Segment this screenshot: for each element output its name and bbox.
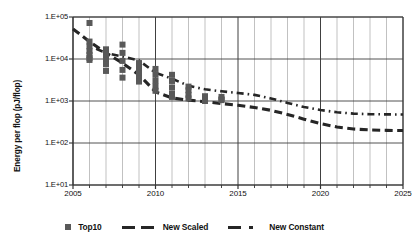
legend-item-new-scaled: New Scaled <box>122 222 229 232</box>
x-axis-tick-label: 2020 <box>312 189 329 198</box>
chart-legend: Top10 New Scaled New Constant <box>0 222 409 232</box>
legend-label-top10: Top10 <box>78 222 102 232</box>
legend-label-new-constant: New Constant <box>269 222 324 232</box>
dashed-line-icon <box>122 223 156 232</box>
x-axis-tick-label: 2025 <box>394 189 411 198</box>
x-axis-tick-label: 2015 <box>229 189 246 198</box>
square-marker-icon <box>65 224 71 230</box>
x-axis-tick-label: 2005 <box>64 189 81 198</box>
legend-item-top10: Top10 <box>65 222 122 232</box>
legend-label-new-scaled: New Scaled <box>163 222 209 232</box>
x-axis-tick-label: 2010 <box>147 189 164 198</box>
x-axis-tick-labels: 20052010201520202025 <box>0 189 409 205</box>
legend-item-new-constant: New Constant <box>228 222 344 232</box>
dashdot-line-icon <box>228 223 262 232</box>
